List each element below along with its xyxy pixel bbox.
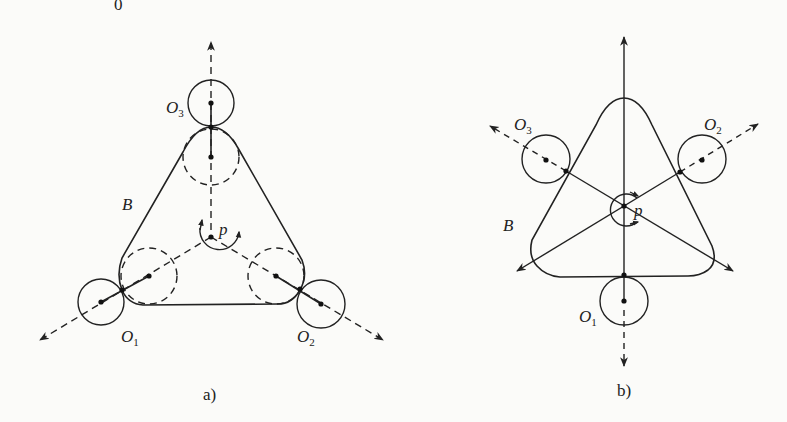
label-o1-a: O1	[121, 327, 139, 348]
header-fragment: 0	[114, 0, 123, 14]
rotation-arrowhead-left-icon	[200, 220, 202, 230]
label-belt-b: B	[503, 216, 514, 235]
label-belt-a: B	[122, 195, 133, 214]
panel-a	[40, 42, 383, 340]
label-pivot-b: p	[633, 201, 643, 220]
label-o3-b: O3	[514, 115, 532, 136]
label-o1-b: O1	[579, 307, 597, 328]
caption-b: b)	[617, 381, 631, 400]
diagram-canvas: 0 O3 B p O1 O2 a)	[0, 0, 787, 422]
label-o2-a: O2	[297, 327, 315, 348]
belt-b	[531, 98, 714, 277]
line-o3-to-lower-right	[566, 171, 733, 271]
panel-b	[490, 37, 758, 366]
label-o2-b: O2	[704, 115, 722, 136]
caption-a: a)	[203, 385, 216, 404]
label-pivot-a: p	[218, 220, 228, 239]
label-o3-a: O3	[166, 98, 184, 119]
